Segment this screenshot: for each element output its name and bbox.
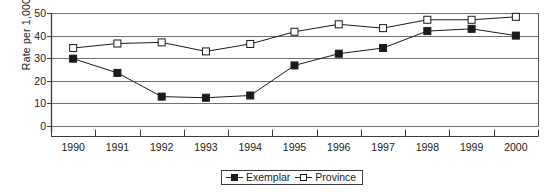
x-tick-label: 1999: [449, 142, 493, 153]
x-tick-label: 1994: [228, 142, 272, 153]
x-tick-label: 1996: [317, 142, 361, 153]
filled-square-icon: [226, 173, 243, 182]
legend-label: Province: [314, 172, 358, 183]
x-tick-label: 1998: [405, 142, 449, 153]
x-tick-label: 1993: [184, 142, 228, 153]
line-chart: Rate per 1,000 01020304050 1990199119921…: [0, 0, 548, 192]
x-tick-label: 1990: [51, 142, 95, 153]
open-square-icon: [295, 173, 312, 182]
chart-legend: ExemplarProvince: [221, 170, 363, 185]
legend-item-exemplar: Exemplar: [226, 172, 292, 183]
legend-item-province: Province: [295, 172, 358, 183]
x-tick-label: 1997: [361, 142, 405, 153]
x-tick-label: 2000: [494, 142, 538, 153]
legend-label: Exemplar: [245, 172, 292, 183]
x-tick-label: 1991: [95, 142, 139, 153]
x-tick-label: 1992: [140, 142, 184, 153]
x-axis-tick-labels: 1990199119921993199419951996199719981999…: [0, 0, 548, 192]
x-tick-label: 1995: [272, 142, 316, 153]
